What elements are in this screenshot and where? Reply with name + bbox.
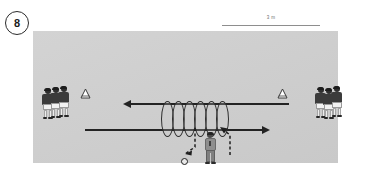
- player-right-shoe-icon: [329, 117, 334, 119]
- player-hair-icon: [333, 86, 340, 90]
- scale-bar-label: 3 m: [222, 15, 320, 20]
- player-hair-icon: [60, 86, 67, 90]
- exercise-number-badge: 8: [5, 11, 29, 35]
- exercise-number-label: 8: [14, 18, 20, 29]
- coach-right-shoe-icon: [211, 162, 216, 164]
- run-arrow-left-head-icon: [123, 100, 131, 108]
- cone-icon: [272, 88, 293, 108]
- coach-left-shoe-icon: [205, 162, 210, 164]
- pass-arrow-out-icon: [214, 119, 238, 157]
- scale-bar: 3 m: [222, 16, 320, 30]
- player-left-shoe-icon: [43, 117, 48, 119]
- coach-leg-gap: [210, 153, 211, 162]
- coach-shirt-logo-icon: [209, 141, 211, 146]
- player-right-shoe-icon: [337, 115, 342, 117]
- cone-icon: [75, 88, 96, 108]
- player-left-shoe-icon: [324, 117, 329, 119]
- scale-bar-line: [222, 25, 320, 26]
- player-torso-icon: [58, 92, 69, 103]
- pass-arrow-in-icon: [173, 127, 203, 161]
- pitch-area: [33, 31, 338, 163]
- player-icon: [57, 86, 70, 116]
- player-torso-icon: [331, 92, 342, 103]
- player-left-shoe-icon: [51, 116, 56, 118]
- player-left-shoe-icon: [59, 115, 64, 117]
- player-left-shoe-icon: [332, 115, 337, 117]
- figure-root: 8 3 m: [0, 0, 369, 180]
- player-icon: [330, 86, 343, 116]
- run-arrow-right-head-icon: [262, 126, 270, 134]
- coach-hair-icon: [207, 132, 214, 135]
- player-left-shoe-icon: [316, 116, 321, 118]
- player-right-shoe-icon: [64, 115, 69, 117]
